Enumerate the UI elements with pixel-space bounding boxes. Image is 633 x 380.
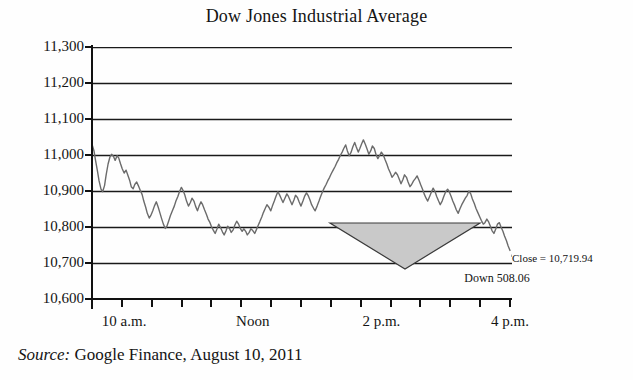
source-note: Source: Google Finance, August 10, 2011	[18, 345, 302, 365]
y-axis-tick-mark	[85, 82, 92, 84]
x-axis-tick-label: 2 p.m.	[336, 314, 426, 329]
y-axis-tick-label: 10,800	[2, 219, 84, 234]
x-axis-tick-mark	[91, 300, 93, 309]
down-triangle-annotation	[330, 223, 480, 269]
chart-figure: Dow Jones Industrial Average Down 508.06…	[0, 0, 633, 380]
x-axis-tick-mark	[300, 300, 302, 307]
x-axis-tick-label: 4 p.m.	[465, 314, 555, 329]
y-axis-tick-mark	[85, 190, 92, 192]
x-axis-tick-mark	[210, 300, 212, 307]
x-axis-tick-label: Noon	[208, 314, 298, 329]
y-axis-tick-label: 11,200	[2, 75, 84, 90]
gridlines	[92, 48, 512, 300]
y-axis-tick-label: 11,100	[2, 111, 84, 126]
x-axis-tick-mark	[419, 300, 421, 307]
x-axis-tick-mark	[449, 300, 451, 307]
plot-area: Down 508.06	[92, 47, 510, 299]
y-axis-tick-label: 10,900	[2, 183, 84, 198]
y-axis-tick-label: 11,000	[2, 147, 84, 162]
x-axis-tick-mark	[181, 300, 183, 307]
y-axis-tick-label: 10,600	[2, 291, 84, 306]
x-axis-tick-mark	[240, 300, 242, 307]
chart-title: Dow Jones Industrial Average	[0, 6, 633, 27]
x-axis-tick-mark	[479, 300, 481, 307]
x-axis-tick-mark	[270, 300, 272, 307]
y-axis-tick-mark	[85, 154, 92, 156]
x-axis-tick-mark	[360, 300, 362, 307]
y-axis-tick-mark	[85, 226, 92, 228]
x-axis-tick-label: 10 a.m.	[79, 314, 169, 329]
source-text: Google Finance, August 10, 2011	[75, 345, 303, 364]
x-axis-tick-mark	[151, 300, 153, 307]
y-axis-tick-label: 10,700	[2, 255, 84, 270]
y-axis-tick-label: 11,300	[2, 39, 84, 54]
x-axis-tick-mark	[330, 300, 332, 307]
close-value-label: Close = 10,719.94	[512, 252, 593, 264]
y-axis-tick-mark	[85, 118, 92, 120]
x-axis-tick-mark	[121, 300, 123, 307]
x-axis-tick-mark	[390, 300, 392, 307]
x-axis-tick-mark	[509, 300, 511, 307]
y-axis-tick-mark	[85, 46, 92, 48]
y-axis-tick-mark	[85, 262, 92, 264]
plot-svg	[92, 47, 512, 301]
down-triangle-shape	[330, 223, 480, 269]
source-label: Source:	[18, 345, 70, 364]
